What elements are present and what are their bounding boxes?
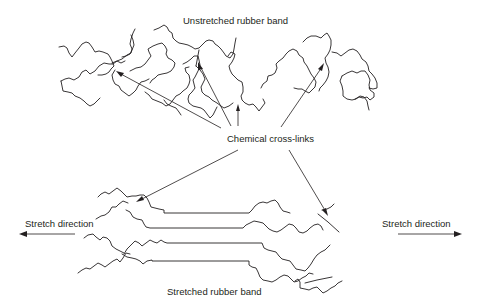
stretch-arrow-left (19, 231, 75, 237)
title-stretched: Stretched rubber band (167, 287, 262, 297)
label-stretch-direction-right: Stretch direction (382, 219, 451, 229)
label-stretch-direction-left: Stretch direction (25, 219, 94, 229)
stretched-polymer-network (78, 188, 342, 293)
diagram-canvas (0, 0, 480, 308)
crosslink-pointers-bottom (136, 150, 328, 216)
label-chemical-cross-links: Chemical cross-links (227, 134, 314, 144)
rubber-band-diagram: Unstretched rubber band Chemical cross-l… (0, 0, 480, 308)
unstretched-polymer-network (59, 25, 377, 118)
stretch-arrow-right (398, 231, 462, 237)
crosslink-pointers-top (116, 62, 324, 128)
title-unstretched: Unstretched rubber band (183, 16, 288, 26)
